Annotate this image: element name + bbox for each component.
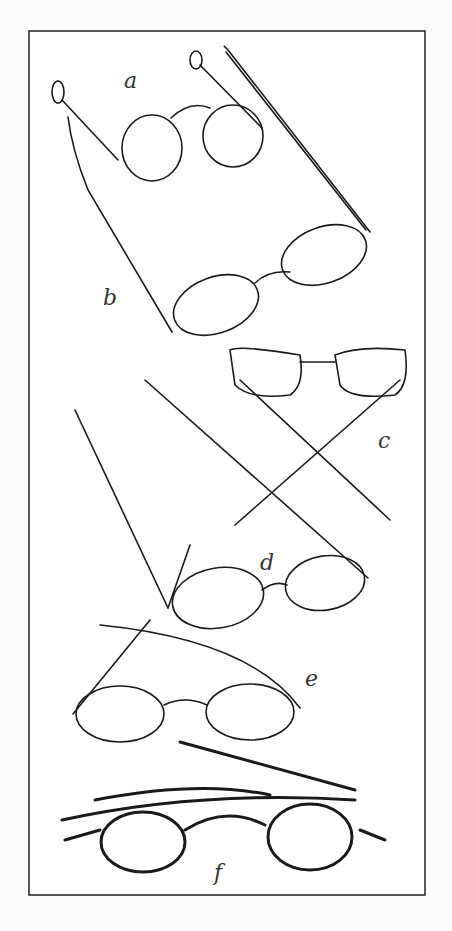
label-d: d bbox=[260, 550, 274, 575]
label-b: b bbox=[103, 285, 117, 310]
label-c: c bbox=[378, 428, 390, 453]
illustration: a b c d e f bbox=[0, 0, 452, 931]
frame bbox=[29, 31, 425, 895]
label-e: e bbox=[305, 666, 318, 691]
label-a: a bbox=[124, 68, 137, 93]
